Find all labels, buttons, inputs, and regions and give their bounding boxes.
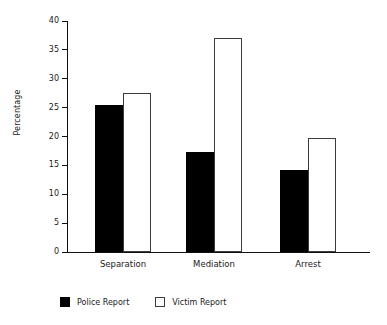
bar-arrest-police-report — [280, 170, 308, 252]
legend-swatch-victim-report — [155, 297, 165, 307]
bar-mediation-victim-report — [214, 38, 242, 252]
y-axis-tick-label: 15 — [37, 161, 59, 169]
legend-label-victim-report: Victim Report — [172, 298, 226, 307]
bar-mediation-police-report — [186, 152, 214, 252]
x-axis-label-arrest: Arrest — [263, 259, 353, 269]
y-axis-tick-label: 20 — [37, 133, 59, 141]
plot-area — [68, 21, 370, 252]
bar-separation-police-report — [95, 105, 123, 252]
legend-swatch-police-report — [60, 297, 70, 307]
bar-separation-victim-report — [123, 93, 151, 252]
y-axis-tick-label: 0 — [37, 248, 59, 256]
y-axis-tick-label: 25 — [37, 104, 59, 112]
chart-legend: Police Report Victim Report — [60, 297, 226, 307]
y-axis-tick-label: 30 — [37, 75, 59, 83]
x-axis-label-mediation: Mediation — [169, 259, 259, 269]
y-axis-tick-label: 5 — [37, 219, 59, 227]
legend-item-police-report: Police Report — [60, 297, 129, 307]
bar-arrest-victim-report — [308, 138, 336, 252]
bar-chart-figure: Percentage 0510152025303540 SeparationMe… — [0, 0, 387, 325]
y-axis-tick-label: 35 — [37, 46, 59, 54]
legend-label-police-report: Police Report — [77, 298, 129, 307]
y-axis-tick-label: 40 — [37, 17, 59, 25]
legend-item-victim-report: Victim Report — [155, 297, 226, 307]
y-axis-tick-label: 10 — [37, 190, 59, 198]
x-axis-label-separation: Separation — [78, 259, 168, 269]
y-axis-label: Percentage — [13, 78, 22, 148]
